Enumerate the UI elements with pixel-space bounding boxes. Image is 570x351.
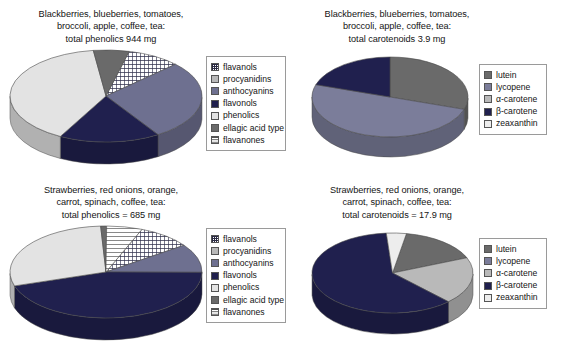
- panel-top-left: Blackberries, blueberries, tomatoes, bro…: [0, 0, 285, 175]
- legend-item-label: anthocyanins: [223, 87, 274, 96]
- title-line: total phenolics 944 mg: [6, 33, 216, 45]
- title-line: Blackberries, blueberries, tomatoes,: [6, 8, 216, 20]
- legend-item[interactable]: procyanidins: [211, 245, 280, 257]
- legend-item-label: flavanones: [223, 308, 265, 317]
- legend-swatch-icon: [211, 87, 219, 95]
- legend-item-label: ellagic acid type: [223, 124, 284, 133]
- legend-swatch-icon: [484, 95, 492, 103]
- legend-swatch-icon: [484, 245, 492, 253]
- legend-item[interactable]: α-carotene: [484, 267, 541, 279]
- legend-item-label: β-carotene: [496, 107, 537, 116]
- legend-item[interactable]: phenolics: [211, 282, 280, 294]
- legend-top-left: flavanolsprocyanidinsanthocyaninsflavono…: [206, 56, 286, 151]
- title-line: Blackberries, blueberries, tomatoes,: [299, 8, 495, 20]
- title-line: total carotenoids 3.9 mg: [299, 33, 495, 45]
- legend-swatch-icon: [211, 63, 219, 71]
- legend-item-label: procyanidins: [223, 75, 271, 84]
- legend-swatch-icon: [211, 112, 219, 120]
- legend-swatch-icon: [484, 71, 492, 79]
- title-line: carrot, spinach, coffee, tea:: [299, 196, 495, 208]
- legend-bottom-left: flavanolsprocyanidinsanthocyaninsflavono…: [206, 228, 286, 323]
- legend-item[interactable]: α-carotene: [484, 93, 541, 105]
- title-line: broccoli, apple, coffee, tea:: [6, 20, 216, 32]
- title-line: broccoli, apple, coffee, tea:: [299, 20, 495, 32]
- legend-item-label: lycopene: [496, 83, 530, 92]
- legend-item[interactable]: lutein: [484, 243, 541, 255]
- legend-swatch-icon: [211, 75, 219, 83]
- legend-item[interactable]: phenolics: [211, 110, 280, 122]
- legend-swatch-icon: [211, 235, 219, 243]
- chart-title-top-right: Blackberries, blueberries, tomatoes, bro…: [299, 8, 495, 45]
- legend-item[interactable]: anthocyanins: [211, 85, 280, 97]
- legend-item-label: lutein: [496, 245, 517, 254]
- pie-svg: [310, 55, 470, 159]
- legend-item[interactable]: zeaxanthin: [484, 118, 541, 130]
- legend-item[interactable]: ellagic acid type: [211, 294, 280, 306]
- legend-swatch-icon: [211, 124, 219, 132]
- legend-item-label: zeaxanthin: [496, 293, 538, 302]
- legend-item[interactable]: lycopene: [484, 81, 541, 93]
- title-line: Strawberries, red onions, orange,: [299, 184, 495, 196]
- legend-swatch-icon: [484, 83, 492, 91]
- title-line: total carotenoids = 17.9 mg: [299, 209, 495, 221]
- legend-swatch-icon: [484, 269, 492, 277]
- panel-top-right: Blackberries, blueberries, tomatoes, bro…: [285, 0, 570, 175]
- legend-item[interactable]: flavanones: [211, 134, 280, 146]
- pie-svg: [310, 231, 475, 336]
- legend-bottom-right: luteinlycopeneα-caroteneβ-carotenezeaxan…: [479, 238, 547, 309]
- legend-item-label: flavonols: [223, 271, 257, 280]
- legend-item-label: anthocyanins: [223, 259, 274, 268]
- chart-title-top-left: Blackberries, blueberries, tomatoes, bro…: [6, 8, 216, 45]
- legend-swatch-icon: [211, 100, 219, 108]
- legend-item-label: lutein: [496, 71, 517, 80]
- legend-item-label: procyanidins: [223, 247, 271, 256]
- panel-bottom-right: Strawberries, red onions, orange, carrot…: [285, 176, 570, 351]
- legend-item-label: lycopene: [496, 257, 530, 266]
- legend-swatch-icon: [211, 284, 219, 292]
- legend-item[interactable]: lutein: [484, 69, 541, 81]
- legend-swatch-icon: [484, 294, 492, 302]
- chart-title-bottom-right: Strawberries, red onions, orange, carrot…: [299, 184, 495, 221]
- pie-chart-bottom-right: [310, 231, 475, 336]
- legend-swatch-icon: [484, 257, 492, 265]
- legend-top-right: luteinlycopeneα-caroteneβ-carotenezeaxan…: [479, 64, 547, 135]
- pie-chart-bottom-left: [8, 224, 204, 342]
- title-line: total phenolics = 685 mg: [6, 209, 216, 221]
- legend-item[interactable]: lycopene: [484, 255, 541, 267]
- legend-item[interactable]: flavanols: [211, 61, 280, 73]
- legend-item[interactable]: procyanidins: [211, 73, 280, 85]
- legend-item[interactable]: anthocyanins: [211, 257, 280, 269]
- legend-item[interactable]: flavanols: [211, 233, 280, 245]
- legend-swatch-icon: [211, 247, 219, 255]
- legend-item-label: flavanols: [223, 63, 257, 72]
- legend-item-label: phenolics: [223, 111, 259, 120]
- title-line: carrot, spinach, coffee, tea:: [6, 196, 216, 208]
- legend-item-label: phenolics: [223, 283, 259, 292]
- legend-item-label: α-carotene: [496, 269, 537, 278]
- legend-item-label: α-carotene: [496, 95, 537, 104]
- pie-chart-top-left: [8, 48, 204, 166]
- legend-item-label: flavanones: [223, 136, 265, 145]
- legend-item-label: zeaxanthin: [496, 119, 538, 128]
- title-line: Strawberries, red onions, orange,: [6, 184, 216, 196]
- legend-item[interactable]: flavanones: [211, 306, 280, 318]
- legend-swatch-icon: [211, 259, 219, 267]
- pie-chart-top-right: [310, 55, 470, 159]
- legend-item[interactable]: β-carotene: [484, 106, 541, 118]
- legend-swatch-icon: [211, 272, 219, 280]
- legend-swatch-icon: [484, 108, 492, 116]
- legend-item[interactable]: β-carotene: [484, 280, 541, 292]
- legend-swatch-icon: [484, 120, 492, 128]
- legend-item[interactable]: ellagic acid type: [211, 122, 280, 134]
- pie-svg: [8, 224, 204, 342]
- legend-item-label: β-carotene: [496, 281, 537, 290]
- legend-swatch-icon: [211, 136, 219, 144]
- legend-swatch-icon: [211, 308, 219, 316]
- pie-svg: [8, 48, 204, 166]
- legend-item[interactable]: zeaxanthin: [484, 292, 541, 304]
- legend-item[interactable]: flavonols: [211, 98, 280, 110]
- legend-item[interactable]: flavonols: [211, 270, 280, 282]
- legend-swatch-icon: [484, 282, 492, 290]
- chart-title-bottom-left: Strawberries, red onions, orange, carrot…: [6, 184, 216, 221]
- legend-swatch-icon: [211, 296, 219, 304]
